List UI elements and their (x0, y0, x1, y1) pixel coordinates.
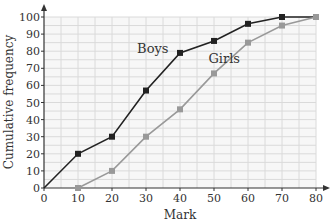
svg-text:40: 40 (26, 114, 40, 127)
svg-text:80: 80 (309, 192, 323, 205)
data-point-marker (279, 23, 285, 29)
data-point-marker (143, 88, 149, 94)
cumulative-frequency-chart: 010203040506070809010001020304050607080 … (0, 0, 333, 224)
data-point-marker (279, 14, 285, 20)
data-point-marker (211, 38, 217, 44)
data-point-marker (177, 50, 183, 56)
svg-text:20: 20 (105, 192, 119, 205)
data-point-marker (245, 40, 251, 46)
data-point-marker (109, 168, 115, 174)
svg-text:20: 20 (26, 148, 40, 161)
data-point-marker (313, 14, 319, 20)
data-point-marker (143, 134, 149, 140)
svg-text:70: 70 (275, 192, 289, 205)
series-label-boys: Boys (137, 41, 168, 56)
svg-text:50: 50 (26, 97, 40, 110)
svg-text:60: 60 (26, 79, 40, 92)
svg-text:80: 80 (26, 45, 40, 58)
svg-text:10: 10 (26, 165, 40, 178)
svg-text:100: 100 (19, 11, 40, 24)
svg-text:70: 70 (26, 62, 40, 75)
svg-text:60: 60 (241, 192, 255, 205)
x-axis-label: Mark (164, 208, 197, 222)
grid (44, 17, 316, 188)
data-point-marker (109, 134, 115, 140)
svg-text:0: 0 (41, 192, 48, 205)
data-point-marker (211, 70, 217, 76)
svg-text:0: 0 (33, 182, 40, 195)
y-axis-label: Cumulative frequency (2, 35, 16, 170)
svg-text:30: 30 (139, 192, 153, 205)
svg-text:10: 10 (71, 192, 85, 205)
data-point-marker (75, 151, 81, 157)
svg-text:40: 40 (173, 192, 187, 205)
series-label-girls: Girls (208, 51, 240, 66)
svg-text:50: 50 (207, 192, 221, 205)
data-point-marker (245, 21, 251, 27)
data-point-marker (177, 106, 183, 112)
data-point-marker (75, 185, 81, 191)
svg-text:90: 90 (26, 28, 40, 41)
svg-text:30: 30 (26, 131, 40, 144)
